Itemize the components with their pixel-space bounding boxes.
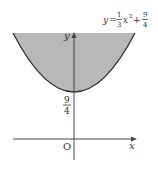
x-axis-label: x xyxy=(129,140,135,151)
eq-term: x xyxy=(123,15,128,25)
eq-frac1-num: 1 xyxy=(117,11,121,19)
parabola-diagram: y x O 9 4 y = 1 3 x 2 + 9 4 xyxy=(0,0,158,169)
eq-exponent: 2 xyxy=(129,13,133,19)
equation-label: y = 1 3 x 2 + 9 4 xyxy=(102,11,148,29)
y-axis-label: y xyxy=(63,30,70,41)
eq-plus: + xyxy=(133,15,141,25)
y-intercept-denominator: 4 xyxy=(64,106,70,116)
eq-frac1-den: 3 xyxy=(117,21,121,29)
y-intercept-numerator: 9 xyxy=(64,95,70,105)
origin-label: O xyxy=(63,141,71,152)
eq-equals: = xyxy=(109,15,117,25)
eq-lhs: y xyxy=(102,15,109,25)
eq-frac2-num: 9 xyxy=(143,11,147,19)
eq-frac2-den: 4 xyxy=(143,21,148,29)
y-intercept-label: 9 4 xyxy=(63,95,71,116)
